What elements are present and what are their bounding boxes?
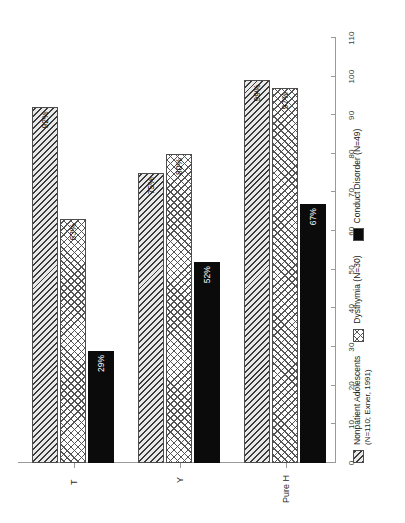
legend-item-dysthymia[interactable]: Dysthymia (N=30) bbox=[352, 255, 364, 341]
bar-y-nonpatient[interactable]: 75% bbox=[138, 173, 164, 463]
category-tick-t bbox=[74, 463, 75, 468]
bar-value-label: 75% bbox=[146, 177, 156, 196]
bar-pureh-dysthymia[interactable]: 97% bbox=[272, 88, 298, 463]
axis-tick bbox=[331, 385, 336, 386]
category-label-t: T bbox=[69, 480, 79, 486]
chart-page: 0 10 20 30 40 50 60 70 80 90 bbox=[0, 0, 405, 523]
bar-value-label: 67% bbox=[308, 208, 318, 227]
bar-value-label: 63% bbox=[68, 224, 78, 243]
bar-t-dysthymia[interactable]: 63% bbox=[60, 220, 86, 464]
axis-tick bbox=[331, 192, 336, 193]
legend-label-nonpatient: Nonpatient Adolescents (N=110; Exner, 19… bbox=[352, 356, 373, 445]
legend-swatch-checker-icon bbox=[353, 329, 364, 342]
category-tick-y bbox=[180, 463, 181, 468]
bar-y-dysthymia[interactable]: 80% bbox=[166, 154, 192, 463]
axis-tick bbox=[331, 114, 336, 115]
bar-t-conduct[interactable]: 29% bbox=[88, 351, 114, 463]
axis-tick bbox=[331, 269, 336, 270]
bar-y-conduct[interactable]: 52% bbox=[194, 262, 220, 463]
category-tick-pure-h bbox=[286, 463, 287, 468]
bar-value-label: 97% bbox=[280, 92, 290, 111]
value-axis-line bbox=[335, 38, 336, 463]
bar-value-label: 99% bbox=[252, 85, 262, 104]
bar-t-nonpatient[interactable]: 92% bbox=[32, 108, 58, 464]
bar-value-label: 52% bbox=[202, 266, 212, 285]
plot-area: 0 10 20 30 40 50 60 70 80 90 bbox=[18, 38, 336, 463]
legend-label-conduct: Conduct Disorder (N=49) bbox=[352, 129, 363, 224]
rotated-figure: 0 10 20 30 40 50 60 70 80 90 bbox=[0, 0, 405, 523]
legend-item-conduct-disorder[interactable]: Conduct Disorder (N=49) bbox=[352, 129, 364, 242]
bar-value-label: 80% bbox=[174, 158, 184, 177]
legend-label-nonpatient-main: Nonpatient Adolescents bbox=[352, 356, 362, 445]
legend-label-dysthymia: Dysthymia (N=30) bbox=[352, 255, 363, 323]
axis-tick bbox=[331, 37, 336, 38]
axis-tick bbox=[331, 308, 336, 309]
axis-tick bbox=[331, 76, 336, 77]
category-label-pure-h: Pure H bbox=[281, 475, 291, 503]
axis-tick bbox=[331, 462, 336, 463]
axis-tick bbox=[331, 423, 336, 424]
chart-legend: Nonpatient Adolescents (N=110; Exner, 19… bbox=[352, 33, 396, 463]
axis-tick bbox=[331, 230, 336, 231]
bar-pureh-nonpatient[interactable]: 99% bbox=[244, 81, 270, 464]
legend-label-nonpatient-sub: (N=110; Exner, 1991) bbox=[363, 356, 373, 445]
axis-tick bbox=[331, 346, 336, 347]
bar-value-label: 92% bbox=[40, 112, 50, 131]
bar-value-label: 29% bbox=[96, 355, 106, 374]
legend-swatch-solid-icon bbox=[353, 228, 364, 241]
legend-item-nonpatient-adolescents[interactable]: Nonpatient Adolescents (N=110; Exner, 19… bbox=[352, 356, 373, 463]
bar-pureh-conduct[interactable]: 67% bbox=[300, 204, 326, 463]
legend-swatch-hatch-icon bbox=[353, 450, 364, 463]
axis-tick bbox=[331, 153, 336, 154]
category-label-y: Y bbox=[175, 477, 185, 483]
